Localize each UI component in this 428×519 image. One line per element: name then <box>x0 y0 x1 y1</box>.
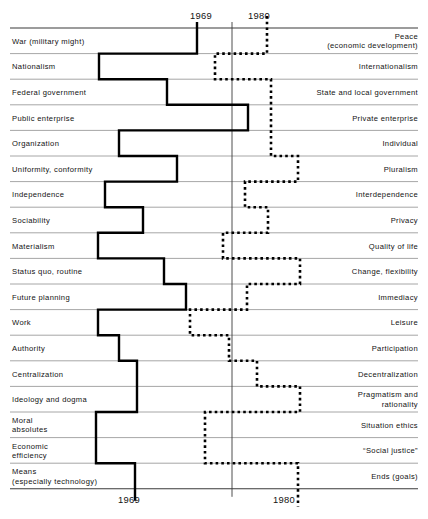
right-pole-label: Situation ethics <box>258 421 418 430</box>
axis-bottom-tick-1980: 1980 <box>273 494 295 505</box>
left-pole-label: Public enterprise <box>12 114 162 123</box>
left-pole-label: Ideology and dogma <box>12 395 162 404</box>
right-pole-label: Pluralism <box>258 165 418 174</box>
left-pole-label: Organization <box>12 139 162 148</box>
left-pole-label: Work <box>12 318 162 327</box>
right-pole-label: Internationalism <box>258 62 418 71</box>
right-pole-label: Individual <box>258 139 418 148</box>
left-pole-label: Sociability <box>12 216 162 225</box>
right-pole-label: Participation <box>258 344 418 353</box>
left-pole-label: Moral absolutes <box>12 416 162 435</box>
left-pole-label: Materialism <box>12 242 162 251</box>
axis-bottom-tick-1969: 1969 <box>118 494 140 505</box>
right-pole-label: Quality of life <box>258 242 418 251</box>
right-pole-label: Immediacy <box>258 293 418 302</box>
right-pole-label: Peace (economic development) <box>258 32 418 51</box>
left-pole-label: Status quo, routine <box>12 267 162 276</box>
right-pole-label: Interdependence <box>258 190 418 199</box>
left-pole-label: Independence <box>12 190 162 199</box>
right-pole-label: Private enterprise <box>258 114 418 123</box>
axis-top-tick-1969: 1969 <box>190 10 212 21</box>
right-pole-label: Ends (goals) <box>258 472 418 481</box>
left-pole-label: Authority <box>12 344 162 353</box>
left-pole-label: Uniformity, conformity <box>12 165 162 174</box>
left-pole-label: Centralization <box>12 370 162 379</box>
right-pole-label: State and local government <box>258 88 418 97</box>
left-pole-label: War (military might) <box>12 37 162 46</box>
left-pole-label: Economic efficiency <box>12 442 162 461</box>
right-pole-label: Privacy <box>258 216 418 225</box>
value-shift-chart: War (military might)NationalismFederal g… <box>0 0 428 519</box>
right-pole-label: Pragmatism and rationality <box>258 390 418 409</box>
left-pole-label: Federal government <box>12 88 162 97</box>
right-pole-label: Change, flexibility <box>258 267 418 276</box>
left-pole-label: Means (especially technology) <box>12 467 162 486</box>
axis-top-tick-1980: 1980 <box>248 10 270 21</box>
right-pole-label: Leisure <box>258 318 418 327</box>
left-pole-label: Future planning <box>12 293 162 302</box>
right-pole-label: “Social justice” <box>258 446 418 455</box>
left-pole-label: Nationalism <box>12 62 162 71</box>
right-pole-label: Decentralization <box>258 370 418 379</box>
